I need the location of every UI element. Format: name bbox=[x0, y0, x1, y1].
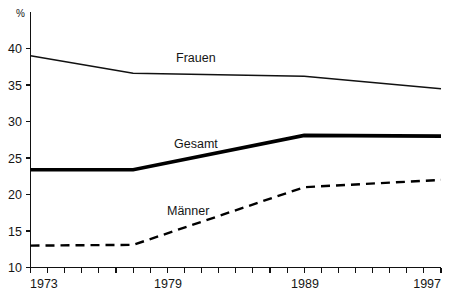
series-annotations: Frauen Gesamt Männer bbox=[167, 51, 218, 218]
y-axis-unit-label: % bbox=[16, 8, 25, 19]
y-tick-label-15: 15 bbox=[8, 225, 22, 239]
y-tick-label-30: 30 bbox=[8, 115, 22, 129]
y-tick-label-35: 35 bbox=[8, 79, 22, 93]
chart-container: % 10 15 20 25 30 35 40 1973 bbox=[0, 0, 454, 299]
y-tick-label-20: 20 bbox=[8, 188, 22, 202]
y-axis-tick-labels: 10 15 20 25 30 35 40 bbox=[8, 42, 22, 275]
x-tick-label-1989: 1989 bbox=[291, 277, 319, 291]
series-line-maenner bbox=[31, 180, 442, 246]
y-tick-label-25: 25 bbox=[8, 152, 22, 166]
y-tick-label-10: 10 bbox=[8, 261, 22, 275]
x-tick-label-1973: 1973 bbox=[30, 277, 58, 291]
x-tick-label-1979: 1979 bbox=[154, 277, 182, 291]
x-axis-tick-labels: 1973 1979 1989 1997 bbox=[30, 277, 441, 291]
series-label-frauen: Frauen bbox=[176, 51, 216, 65]
y-tick-label-40: 40 bbox=[8, 42, 22, 56]
series-label-maenner: Männer bbox=[167, 204, 209, 218]
series-line-frauen bbox=[31, 56, 442, 89]
x-tick-label-1997: 1997 bbox=[413, 277, 441, 291]
line-chart: % 10 15 20 25 30 35 40 1973 bbox=[0, 0, 454, 299]
series-line-gesamt bbox=[31, 135, 442, 169]
series-label-gesamt: Gesamt bbox=[174, 137, 218, 151]
